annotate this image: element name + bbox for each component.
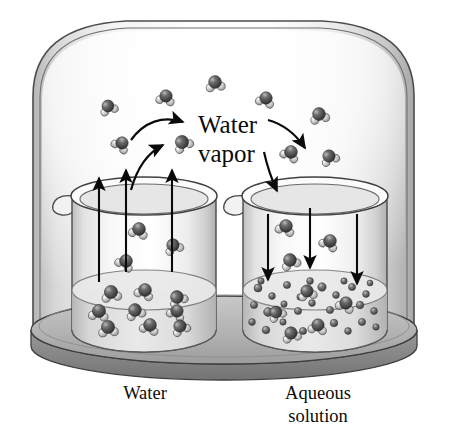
- solute-particle: [373, 324, 379, 330]
- solute-particle: [250, 301, 257, 308]
- caption-water: Water: [123, 383, 167, 403]
- solute-particle: [258, 278, 264, 284]
- solute-particle: [345, 328, 352, 335]
- caption-aqueous-solution-line2: solution: [288, 406, 348, 426]
- beaker-solution-rim-inner: [251, 184, 379, 214]
- water-vapor-label-line1: Water: [198, 111, 258, 138]
- solute-particle: [318, 283, 326, 291]
- beaker-aqueous-solution: [224, 177, 388, 352]
- solute-particle: [348, 283, 355, 290]
- solute-particle: [326, 306, 333, 313]
- solute-particle: [333, 292, 340, 299]
- vapor-pressure-diagram: Water vapor Water Aqueous solution: [0, 0, 449, 431]
- solute-particle: [367, 280, 373, 286]
- solute-particle: [371, 308, 378, 315]
- illustration-stage: Water vapor Water Aqueous solution: [0, 0, 449, 431]
- solute-particle: [330, 319, 338, 327]
- caption-aqueous-solution-line1: Aqueous: [285, 383, 351, 403]
- solute-particle: [358, 318, 365, 325]
- solute-particle: [356, 301, 364, 309]
- solute-particle: [307, 278, 314, 285]
- solute-particle: [341, 278, 347, 284]
- solute-particle: [283, 281, 290, 288]
- solute-particle: [269, 293, 276, 300]
- solute-particle: [280, 319, 286, 325]
- solute-particle: [281, 301, 287, 307]
- beaker-water: [53, 177, 217, 352]
- solute-particle: [262, 326, 270, 334]
- solute-particle: [363, 291, 370, 298]
- solute-particle: [294, 307, 301, 314]
- solute-particle: [309, 300, 316, 307]
- water-vapor-label-line2: vapor: [198, 140, 256, 167]
- solute-particle: [254, 284, 262, 292]
- solute-particle: [249, 319, 256, 326]
